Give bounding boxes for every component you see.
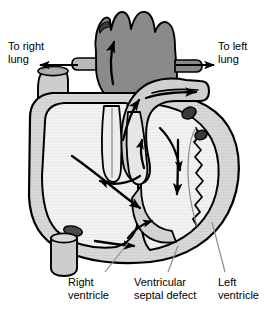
label-to-right-lung: To right lung bbox=[8, 40, 44, 65]
label-ventricular-septal-defect: Ventricular septal defect bbox=[134, 276, 196, 301]
label-left-ventricle: Left ventricle bbox=[218, 276, 259, 301]
inferior-vena-cava bbox=[51, 233, 77, 276]
label-to-left-lung: To left lung bbox=[218, 40, 247, 65]
flow-arrow-lv-down bbox=[177, 140, 178, 194]
label-right-ventricle: Right ventricle bbox=[68, 276, 109, 301]
figure-canvas: To right lung To left lung Right ventric… bbox=[0, 0, 270, 313]
